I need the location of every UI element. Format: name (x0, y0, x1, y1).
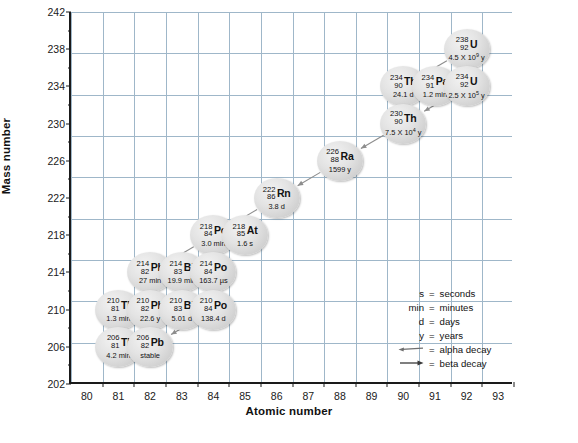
legend-row-y: y = years (398, 328, 491, 342)
nuclide-numbers: 21885 (233, 223, 246, 238)
atomic-number: 92 (460, 44, 468, 52)
nuclide-node-ra226: 22688Ra1599 y (317, 141, 363, 181)
half-life-label: 1.6 s (237, 240, 253, 247)
legend-abbr-min: min (398, 302, 424, 313)
nuclide-numbers: 21884 (200, 223, 213, 238)
legend-text-minutes: minutes (440, 302, 474, 313)
half-life-label: 24.1 d (393, 91, 414, 98)
legend-row-alpha: = alpha decay (398, 342, 491, 356)
legend-text-years: years (440, 330, 463, 341)
half-life-label: 5.01 d (171, 315, 192, 322)
element-symbol: Pb (151, 337, 164, 348)
beta-arrow-icon (398, 357, 424, 369)
legend-equals: = (429, 302, 435, 313)
x-tick-label: 92 (461, 390, 473, 402)
nuclide-node-po214: 21484Po163.7 µs (190, 252, 236, 292)
y-tick-label: 234 (47, 80, 65, 92)
nuclide-node-rn222: 22286Rn3.8 d (254, 178, 300, 218)
atomic-number: 84 (204, 268, 212, 276)
half-life-label: 27 min (139, 277, 161, 284)
nuclide-symbol: 21484Po (200, 260, 227, 275)
element-symbol: Rn (277, 188, 291, 199)
legend-equals: = (429, 358, 435, 369)
nuclide-numbers: 23492 (456, 73, 469, 88)
nuclide-symbol: 20682Pb (136, 334, 163, 349)
nuclide-symbol: 21885At (233, 223, 258, 238)
nuclide-node-pb206: 20682Pbstable (127, 327, 173, 367)
nuclide-numbers: 22286 (263, 186, 276, 201)
atomic-number: 81 (111, 342, 119, 350)
half-life-label: 4.5 X 109 y (448, 53, 484, 62)
atomic-number: 83 (174, 305, 182, 313)
element-symbol: Po (214, 262, 227, 273)
atomic-number: 90 (394, 118, 402, 126)
half-life-label: 163.7 µs (199, 277, 228, 284)
legend-text-days: days (440, 316, 460, 327)
half-life-label: 3.8 d (268, 203, 284, 210)
y-tick-label: 226 (47, 155, 65, 167)
nuclide-numbers: 20681 (107, 334, 120, 349)
legend-row-d: d = days (398, 314, 491, 328)
legend: s = seconds min = minutes d = days y = y… (398, 286, 491, 370)
nuclide-node-u238: 23892U4.5 X 109 y (444, 29, 490, 69)
element-symbol: Th (404, 113, 416, 124)
half-life-label: 2.5 X 105 y (448, 91, 484, 100)
atomic-number: 83 (174, 268, 182, 276)
half-life-label: 3.0 min (201, 240, 225, 247)
element-symbol: Ra (341, 151, 354, 162)
x-tick-label: 90 (397, 390, 409, 402)
legend-equals: = (429, 288, 435, 299)
atomic-number: 82 (141, 305, 149, 313)
nuclide-numbers: 21082 (136, 297, 149, 312)
nuclide-symbol: 23492U (456, 73, 478, 88)
atomic-number: 91 (426, 82, 434, 90)
y-tick-label: 214 (47, 266, 65, 278)
half-life-label: stable (140, 352, 160, 359)
legend-text-beta: beta decay (440, 358, 487, 369)
atomic-number: 92 (460, 81, 468, 89)
nuclide-symbol: 23892U (456, 36, 478, 51)
nuclide-numbers: 21483 (170, 260, 183, 275)
nuclide-numbers: 21081 (107, 297, 120, 312)
nuclide-numbers: 23491 (422, 74, 435, 89)
y-tick-label: 222 (47, 192, 65, 204)
legend-abbr-s: s (398, 288, 424, 299)
legend-row-min: min = minutes (398, 300, 491, 314)
nuclide-symbol: 21084Po (200, 297, 227, 312)
legend-equals: = (429, 330, 435, 341)
nuclide-numbers: 22688 (326, 148, 339, 163)
nuclide-node-u234: 23492U2.5 X 105 y (444, 66, 490, 106)
atomic-number: 84 (204, 230, 212, 238)
x-tick-label: 80 (81, 390, 93, 402)
atomic-number: 81 (111, 305, 119, 313)
x-axis-title: Atomic number (0, 405, 578, 417)
atomic-number: 86 (267, 193, 275, 201)
legend-equals: = (429, 316, 435, 327)
half-life-label: 22.6 y (140, 315, 160, 322)
legend-text-alpha: alpha decay (440, 344, 492, 355)
x-tick-label: 87 (302, 390, 314, 402)
atomic-number: 88 (331, 156, 339, 164)
legend-equals: = (429, 344, 435, 355)
atomic-number: 85 (237, 230, 245, 238)
nuclide-numbers: 23892 (456, 36, 469, 51)
nuclide-symbol: 22688Ra (326, 148, 353, 163)
nuclide-node-th230: 23090Th7.5 X 104 y (380, 104, 426, 144)
y-tick-label: 230 (47, 118, 65, 130)
nuclide-numbers: 21482 (136, 260, 149, 275)
y-tick-label: 206 (47, 341, 65, 353)
atomic-number: 82 (141, 268, 149, 276)
nuclide-symbol: 22286Rn (263, 186, 291, 201)
y-tick-label: 238 (47, 43, 65, 55)
nuclide-numbers: 23090 (390, 110, 403, 125)
element-symbol: Po (214, 300, 227, 311)
atomic-number: 84 (204, 305, 212, 313)
element-symbol: At (247, 225, 258, 236)
x-tick-label: 82 (144, 390, 156, 402)
element-symbol: U (470, 39, 477, 50)
x-tick-label: 89 (366, 390, 378, 402)
half-life-label: 4.2 min (106, 352, 130, 359)
element-symbol: U (470, 76, 477, 87)
nuclide-numbers: 21484 (200, 260, 213, 275)
alpha-arrow-icon (398, 343, 424, 355)
